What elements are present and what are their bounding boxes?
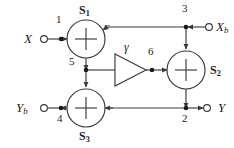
terminal-label-yb: Yb [16,101,28,116]
diagram-canvas [0,0,234,148]
terminal-y-out-circle [204,105,211,112]
node-4-dot [59,106,64,111]
node-1-label: 1 [56,14,62,25]
node-3-dot [184,25,189,30]
s1-negative-sign: − [104,20,110,31]
node-3-label: 3 [182,3,188,14]
node-2-dot [184,106,189,111]
adder-label-s3: S3 [79,130,90,144]
node-1-dot [59,37,64,42]
node-6-label: 6 [148,46,154,57]
terminal-label-y: Y [218,101,225,114]
node-4-label: 4 [57,113,63,124]
terminal-yb-out-circle [41,105,48,112]
terminal-label-xb: Xb [216,20,228,35]
terminal-x-in-circle [41,36,48,43]
gamma-gain-label: γ [124,41,129,53]
adder-label-s2: S2 [210,64,221,78]
node-2-label: 2 [182,113,188,124]
node-5-dot [84,68,89,73]
adder-label-s1: S1 [79,4,90,18]
node-6-dot [150,68,155,73]
node-5-label: 5 [69,56,75,67]
terminal-xb-in-circle [206,24,213,31]
terminal-label-x: X [24,32,32,45]
gamma-amplifier-triangle [115,54,146,86]
signal-flow-diagram: X Xb Yb Y S1 S2 S3 γ 1 2 3 4 5 6 − [0,0,234,148]
